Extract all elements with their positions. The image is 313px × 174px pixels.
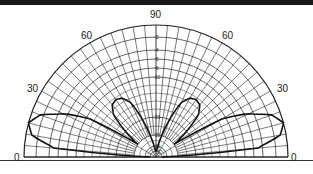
ring-label: -30 — [153, 132, 160, 138]
angle-label-0-left: 0 — [14, 152, 20, 163]
ring-label: -6 — [154, 56, 159, 62]
ring-label: -50 — [153, 149, 160, 155]
polar-chart: 0 30 60 90 60 30 0 -2 -4 -6 -8 -10 -20 -… — [0, 0, 313, 174]
ring-label: -2 — [154, 34, 159, 40]
ring-label: -10 — [153, 74, 160, 80]
angle-label-60-left: 60 — [81, 30, 93, 41]
ring-label: -4 — [154, 47, 159, 53]
angle-label-0-right: 0 — [291, 152, 297, 163]
ring-label: -8 — [154, 65, 159, 71]
ring-label: -20 — [153, 114, 160, 120]
angle-label-90: 90 — [150, 9, 162, 20]
angle-label-30-right: 30 — [277, 83, 289, 94]
angle-label-30-left: 30 — [27, 83, 39, 94]
angle-label-60-right: 60 — [222, 30, 234, 41]
